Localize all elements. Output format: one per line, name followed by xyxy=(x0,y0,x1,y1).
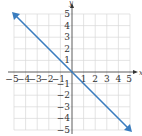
x-tick: 4 xyxy=(116,74,122,84)
x-axis-label: x xyxy=(139,69,142,77)
x-axis-arrow-icon xyxy=(133,70,138,74)
y-tick: −4 xyxy=(57,113,71,123)
y-tick: 5 xyxy=(64,9,70,19)
y-tick: 2 xyxy=(64,44,70,54)
x-tick: 5 xyxy=(126,74,132,84)
x-tick: 2 xyxy=(92,74,98,84)
coordinate-plane: x y −5 −4 −3 −2 −1 1 2 3 4 5 5 4 3 2 1 −… xyxy=(0,0,142,136)
y-tick: −2 xyxy=(57,90,70,100)
y-tick: 4 xyxy=(64,21,70,31)
y-tick: −1 xyxy=(57,79,70,89)
y-tick: 3 xyxy=(64,32,70,42)
y-tick: 1 xyxy=(64,55,70,65)
y-tick: −5 xyxy=(57,125,71,135)
y-tick: −3 xyxy=(57,102,71,112)
x-tick: 3 xyxy=(104,74,110,84)
